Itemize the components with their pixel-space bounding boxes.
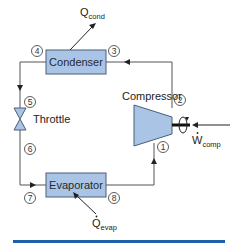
rate-dot — [96, 216, 98, 218]
q-cond: Qcond — [70, 6, 105, 50]
svg-text:6: 6 — [28, 144, 33, 154]
q-evap: Qevap — [73, 192, 117, 232]
w-comp-label: Wcomp — [192, 134, 221, 149]
work-input: Wcomp — [192, 122, 230, 149]
rate-dot — [197, 132, 199, 134]
state-point-3: 3 — [109, 46, 120, 57]
evaporator-label: Evaporator — [49, 179, 103, 191]
svg-text:7: 7 — [28, 193, 33, 203]
evaporator: Evaporator — [46, 173, 106, 197]
compressor-label: Compressor — [122, 90, 182, 102]
state-point-5: 5 — [25, 97, 36, 108]
svg-text:1: 1 — [161, 142, 166, 152]
arrow-up-icon — [151, 158, 157, 164]
throttle-label: Throttle — [33, 113, 70, 125]
state-point-8: 8 — [109, 193, 120, 204]
svg-text:5: 5 — [28, 97, 33, 107]
state-point-7: 7 — [25, 193, 36, 204]
svg-text:3: 3 — [112, 46, 117, 56]
arrow-left-icon — [124, 59, 130, 65]
condenser-label: Condenser — [49, 56, 103, 68]
svg-text:4: 4 — [35, 46, 40, 56]
refrigeration-cycle-diagram: Condenser Evaporator Compressor Wcomp Th… — [0, 0, 232, 243]
svg-text:8: 8 — [112, 193, 117, 203]
svg-text:2: 2 — [178, 95, 183, 105]
q-evap-label: Qevap — [92, 217, 117, 232]
arrow-right-icon — [30, 182, 36, 188]
state-point-1: 1 — [158, 142, 169, 153]
q-cond-label: Qcond — [80, 6, 105, 21]
arrow-down-icon — [17, 85, 23, 91]
condenser: Condenser — [46, 50, 106, 74]
throttle: Throttle — [14, 108, 70, 130]
state-point-4: 4 — [32, 46, 43, 57]
state-point-6: 6 — [25, 144, 36, 155]
